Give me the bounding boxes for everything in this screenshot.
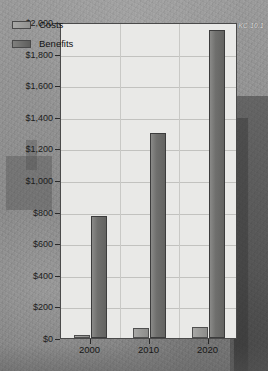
y-axis-tick-mark xyxy=(55,181,60,182)
bar-benefits-2020 xyxy=(209,30,225,338)
vertical-gridline xyxy=(120,24,121,338)
bar-costs-2010 xyxy=(133,328,149,338)
y-axis-tick-mark xyxy=(55,213,60,214)
bar-benefits-2010 xyxy=(150,133,166,338)
y-axis-tick-mark xyxy=(55,307,60,308)
chart-figure: KC 10.1 Billions $2,000$1,800$1,600$1,40… xyxy=(0,0,268,371)
x-axis-tick-label: 2010 xyxy=(138,344,159,355)
plot-area xyxy=(60,23,237,339)
legend-swatch-icon xyxy=(12,40,31,48)
bar-benefits-2000 xyxy=(91,216,107,338)
y-axis-tick-label: $1,400 xyxy=(25,113,53,123)
bar-costs-2000 xyxy=(74,335,90,338)
legend-item-benefits: Benefits xyxy=(12,38,73,49)
y-axis-tick-mark xyxy=(55,276,60,277)
x-axis-tick-label: 2000 xyxy=(79,344,100,355)
y-axis-tick-label: $400 xyxy=(33,271,53,281)
y-axis-tick-label: $1,600 xyxy=(25,81,53,91)
y-axis-tick-mark xyxy=(55,244,60,245)
chart-legend: CostsBenefits xyxy=(12,19,73,57)
y-axis-tick-label: $1,000 xyxy=(25,176,53,186)
y-axis-tick-mark xyxy=(55,23,60,24)
legend-label: Costs xyxy=(39,19,63,30)
legend-swatch-icon xyxy=(12,21,31,29)
y-axis-tick-label: $600 xyxy=(33,239,53,249)
y-axis-tick-mark xyxy=(55,118,60,119)
y-axis-tick-mark xyxy=(55,149,60,150)
vertical-gridline xyxy=(179,24,180,338)
y-axis-tick-mark xyxy=(55,86,60,87)
y-axis-tick-mark xyxy=(55,55,60,56)
y-axis-tick-label: $800 xyxy=(33,208,53,218)
y-axis-tick-mark xyxy=(55,339,60,340)
figure-credit: KC 10.1 xyxy=(238,22,264,29)
y-axis-tick-label: $0 xyxy=(43,334,53,344)
legend-item-costs: Costs xyxy=(12,19,73,30)
y-axis-tick-label: $200 xyxy=(33,302,53,312)
x-axis-tick-label: 2020 xyxy=(197,344,218,355)
y-axis-tick-label: $1,200 xyxy=(25,144,53,154)
bar-costs-2020 xyxy=(192,327,208,338)
legend-label: Benefits xyxy=(39,38,73,49)
